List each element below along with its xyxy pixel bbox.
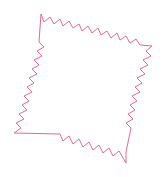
figure-canvas: [0, 0, 168, 177]
background-rect: [0, 0, 168, 177]
zigzag-shape-svg: [0, 0, 168, 177]
